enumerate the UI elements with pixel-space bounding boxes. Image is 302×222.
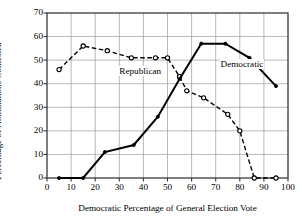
data-point-marker xyxy=(238,129,242,133)
data-point-marker xyxy=(274,176,278,180)
data-point-marker xyxy=(153,56,157,60)
data-point-marker xyxy=(165,56,169,60)
data-point-marker xyxy=(226,112,230,116)
data-point-marker xyxy=(129,56,133,60)
x-axis-label: Democratic Percentage of General Electio… xyxy=(47,203,288,213)
series-annotation-democratic: Democratic xyxy=(220,59,265,69)
plot-area xyxy=(0,0,302,222)
data-point-marker xyxy=(103,150,106,153)
data-point-marker xyxy=(224,42,227,45)
data-point-marker xyxy=(82,176,85,179)
data-point-marker xyxy=(178,77,181,80)
data-point-marker xyxy=(81,44,85,48)
data-point-marker xyxy=(274,84,277,87)
data-point-marker xyxy=(202,96,206,100)
chart-figure: Percentage of Nominations Contested 0102… xyxy=(0,0,302,222)
series-annotation-republican: Republican xyxy=(118,66,162,76)
data-point-marker xyxy=(185,89,189,93)
data-point-marker xyxy=(252,176,256,180)
data-point-marker xyxy=(200,42,203,45)
data-point-marker xyxy=(57,67,61,71)
data-point-marker xyxy=(105,49,109,53)
data-point-marker xyxy=(132,143,135,146)
data-point-marker xyxy=(156,115,159,118)
data-point-marker xyxy=(57,176,60,179)
